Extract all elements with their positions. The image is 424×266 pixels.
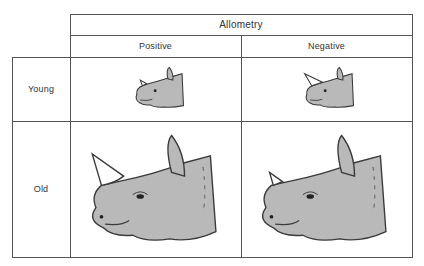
grid-bottom-border [12,257,413,258]
rhino-head-icon [250,130,400,250]
rhino-head-young-positive [128,66,188,112]
grid-row-divider [12,121,413,122]
rhino-head-icon [128,66,188,112]
rhino-head-old-positive [80,130,230,250]
row-label-old: Old [12,184,70,194]
header-title: Allometry [70,19,412,30]
column-header-positive: Positive [70,41,241,51]
rhino-head-old-negative [250,130,400,250]
grid-columns-divider [12,57,413,58]
rhino-head-icon [298,66,358,112]
column-header-negative: Negative [241,41,412,51]
row-label-young: Young [12,84,70,94]
rhino-head-icon [80,130,230,250]
rhino-head-young-negative [298,66,358,112]
grid-column-divider [241,35,242,258]
grid-right-border [412,14,413,258]
grid-top-border [70,14,413,15]
